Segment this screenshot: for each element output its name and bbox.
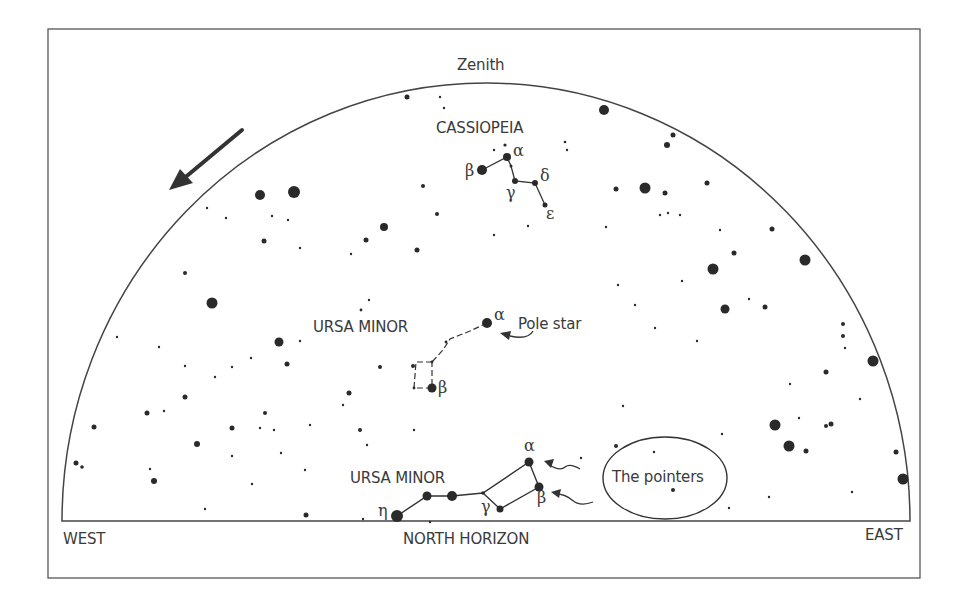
big-dipper-gamma-label: γ: [481, 499, 491, 515]
ursa-minor-alpha-label: α: [494, 307, 505, 323]
north-horizon-label: NORTH HORIZON: [403, 532, 529, 547]
cassiopeia-epsilon-label: ε: [546, 206, 554, 222]
pointers-label: The pointers: [612, 470, 704, 485]
big-dipper-label: URSA MINOR: [350, 471, 445, 486]
cassiopeia-label: CASSIOPEIA: [436, 121, 523, 136]
west-label: WEST: [63, 532, 105, 547]
cassiopeia-beta-label: β: [465, 163, 474, 179]
sky-dome: [62, 83, 910, 521]
big-dipper-beta-label: β: [537, 490, 546, 506]
big-dipper-alpha-label: α: [524, 438, 535, 454]
big-dipper-constellation: [391, 458, 544, 523]
ursa-minor-beta-label: β: [438, 380, 447, 396]
cassiopeia-alpha-label: α: [513, 143, 524, 159]
east-label: EAST: [865, 528, 903, 543]
pole-star-label: Pole star: [518, 317, 581, 332]
big-dipper-eta-label: η: [378, 503, 388, 519]
cassiopeia-gamma-label: γ: [506, 185, 516, 201]
ursa-minor-label: URSA MINOR: [313, 320, 408, 335]
background-stars: [74, 95, 909, 524]
rotation-arrow-icon: [169, 130, 242, 190]
cassiopeia-delta-label: δ: [540, 168, 550, 184]
chart-frame: [48, 29, 920, 578]
zenith-label: Zenith: [457, 58, 504, 73]
